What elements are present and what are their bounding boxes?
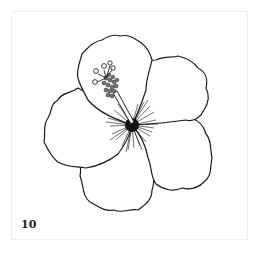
- page-number: 10: [21, 218, 36, 231]
- hibiscus-illustration: [0, 0, 262, 253]
